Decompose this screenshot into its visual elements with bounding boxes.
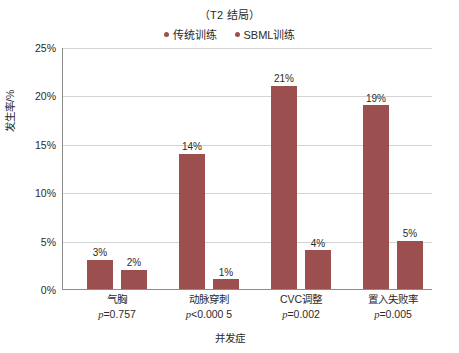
- bar-series-2: [213, 279, 239, 289]
- bar-group: 19% 5%: [357, 48, 431, 289]
- x-category-0: 气胸 p=0.757: [80, 292, 154, 322]
- bar-series-1: [179, 154, 205, 290]
- legend-swatch-series-1: [164, 32, 169, 37]
- y-tick-label: 0%: [41, 284, 56, 296]
- x-category-pvalue: p=0.757: [80, 307, 154, 322]
- x-category-pvalue: p=0.005: [350, 307, 436, 322]
- bar-value-label: 19%: [356, 93, 396, 104]
- x-category-pvalue: p=0.002: [261, 307, 341, 322]
- bar-group: 21% 4%: [265, 48, 339, 289]
- x-axis-categories: 气胸 p=0.757 动脉穿刺 p<0.000 5 CVC调整 p=0.002 …: [62, 292, 432, 334]
- bar-value-label: 2%: [114, 257, 154, 268]
- bar-value-label: 5%: [390, 228, 430, 239]
- x-category-label: CVC调整: [261, 292, 341, 307]
- chart-legend: 传统训练 SBML训练: [0, 26, 459, 42]
- y-tick-label: 15%: [35, 139, 56, 151]
- x-axis-title: 并发症: [0, 330, 459, 345]
- pvalue-text: =0.757: [103, 308, 135, 320]
- y-tick-label: 5%: [41, 236, 56, 248]
- plot-area: 3% 2% 14% 1% 21% 4% 19% 5%: [62, 48, 432, 290]
- chart-container: （T2 结局） 传统训练 SBML训练 发生率/% 25% 20% 15% 10…: [0, 0, 459, 353]
- bar-group: 3% 2%: [81, 48, 155, 289]
- x-category-label: 动脉穿刺: [166, 292, 252, 307]
- pvalue-text: <0.000 5: [191, 308, 232, 320]
- legend-label-series-2: SBML训练: [244, 26, 296, 42]
- pvalue-text: =0.002: [287, 308, 319, 320]
- bar-series-1: [271, 86, 297, 289]
- bar-value-label: 4%: [298, 238, 338, 249]
- x-category-2: CVC调整 p=0.002: [261, 292, 341, 322]
- bar-series-1: [363, 105, 389, 289]
- chart-title: （T2 结局）: [0, 6, 459, 22]
- legend-item-series-2: SBML训练: [235, 26, 296, 42]
- x-category-pvalue: p<0.000 5: [166, 307, 252, 322]
- y-axis-ticks: 25% 20% 15% 10% 5% 0%: [0, 48, 62, 290]
- y-tick-label: 10%: [35, 187, 56, 199]
- y-tick-label: 20%: [35, 90, 56, 102]
- pvalue-text: =0.005: [379, 308, 411, 320]
- bar-value-label: 21%: [264, 73, 304, 84]
- bar-value-label: 1%: [206, 267, 246, 278]
- bar-series-1: [87, 260, 113, 289]
- bar-group: 14% 1%: [173, 48, 247, 289]
- x-category-1: 动脉穿刺 p<0.000 5: [166, 292, 252, 322]
- x-category-label: 置入失败率: [350, 292, 436, 307]
- legend-label-series-1: 传统训练: [173, 26, 217, 42]
- legend-item-series-1: 传统训练: [164, 26, 217, 42]
- bar-value-label: 14%: [172, 141, 212, 152]
- x-category-3: 置入失败率 p=0.005: [350, 292, 436, 322]
- x-category-label: 气胸: [80, 292, 154, 307]
- bar-series-2: [397, 241, 423, 289]
- bar-series-2: [305, 250, 331, 289]
- bar-series-2: [121, 270, 147, 289]
- legend-swatch-series-2: [235, 32, 240, 37]
- y-tick-label: 25%: [35, 42, 56, 54]
